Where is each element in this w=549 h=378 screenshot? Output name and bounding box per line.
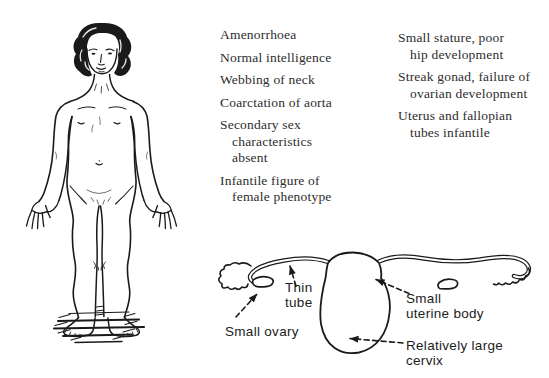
feature-line: characteristics xyxy=(232,134,354,151)
feature-line: Uterus and fallopian xyxy=(398,108,549,125)
feature-item: Infantile figure offemale phenotype xyxy=(220,173,354,206)
small-ovary-arrow xyxy=(236,294,257,317)
feature-line: Secondary sex xyxy=(220,117,354,134)
feature-line: absent xyxy=(232,150,354,167)
feature-item: Amenorrhoea xyxy=(220,27,354,44)
feature-line: tubes infantile xyxy=(410,125,549,142)
feature-item: Uterus and fallopiantubes infantile xyxy=(398,108,549,141)
feature-item: Normal intelligence xyxy=(220,50,354,67)
left-arm xyxy=(39,102,70,202)
right-arm xyxy=(133,102,164,202)
legs-inner-lines xyxy=(95,206,104,317)
label-small-uterine-body: Small uterine body xyxy=(406,291,484,321)
feature-line: Infantile figure of xyxy=(220,173,354,190)
feature-line: Coarctation of aorta xyxy=(220,95,354,112)
feature-line: Amenorrhoea xyxy=(220,27,354,44)
eye-left xyxy=(92,53,96,55)
feature-line: Streak gonad, failure of xyxy=(398,69,549,86)
feature-line: hip development xyxy=(410,47,549,64)
feature-item: Coarctation of aorta xyxy=(220,95,354,112)
right-hand xyxy=(144,200,177,228)
feature-line: female phenotype xyxy=(232,189,354,206)
left-hand xyxy=(27,200,60,228)
uterus-body-shape xyxy=(320,253,390,354)
neck-webbing xyxy=(70,75,134,102)
feature-line: Normal intelligence xyxy=(220,50,354,67)
left-fimbriae xyxy=(219,263,251,290)
clinical-features-right-column: Small stature, poorhip developmentStreak… xyxy=(398,30,549,147)
eye-right xyxy=(108,53,112,55)
label-relatively-large-cervix: Relatively large cervix xyxy=(406,338,503,368)
medical-illustration: AmenorrhoeaNormal intelligenceWebbing of… xyxy=(0,0,549,378)
feature-item: Streak gonad, failure ofovarian developm… xyxy=(398,69,549,102)
clinical-features-left-column: AmenorrhoeaNormal intelligenceWebbing of… xyxy=(220,27,354,212)
left-ovary-shape xyxy=(253,277,274,287)
torso-outline xyxy=(67,117,79,318)
label-thin-tube: Thin tube xyxy=(285,280,312,310)
patient-figure-illustration xyxy=(25,5,205,370)
feature-item: Secondary sexcharacteristicsabsent xyxy=(220,117,354,167)
feature-item: Small stature, poorhip development xyxy=(398,30,549,63)
feature-line: Webbing of neck xyxy=(220,72,354,89)
label-small-ovary: Small ovary xyxy=(225,324,299,339)
right-ovary-shape xyxy=(438,279,458,289)
feature-item: Webbing of neck xyxy=(220,72,354,89)
ground-hatching xyxy=(54,312,144,343)
feature-line: ovarian development xyxy=(410,86,549,103)
figure-line-art xyxy=(27,23,177,343)
feature-line: Small stature, poor xyxy=(398,30,549,47)
fallopian-tube-right xyxy=(379,257,529,278)
